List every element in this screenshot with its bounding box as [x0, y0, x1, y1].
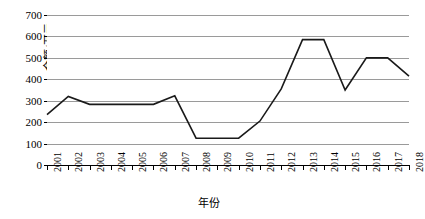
- x-axis-tick-mark: [111, 166, 112, 170]
- x-axis-tick-label: 2015: [350, 152, 361, 172]
- x-axis-tick-mark: [281, 166, 282, 170]
- x-axis-tick-mark: [409, 166, 410, 170]
- x-axis-tick-label: 2009: [222, 152, 233, 172]
- x-axis-tick-label: 2011: [265, 152, 276, 172]
- x-axis-tick-label: 2017: [393, 152, 404, 172]
- data-series-line: [47, 15, 409, 165]
- x-axis-tick-mark: [175, 166, 176, 170]
- x-axis-tick-label: 2004: [116, 152, 127, 172]
- y-axis-tick-label: 0: [0, 160, 42, 170]
- x-axis-tick-mark: [196, 166, 197, 170]
- x-axis-tick-mark: [90, 166, 91, 170]
- x-axis-tick-label: 2016: [371, 152, 382, 172]
- y-axis-tick-label: 300: [0, 96, 42, 106]
- x-axis-tick-label: 2010: [244, 152, 255, 172]
- x-axis-tick-label: 2018: [414, 152, 425, 172]
- x-axis-tick-mark: [217, 166, 218, 170]
- x-axis-tick-label: 2002: [73, 152, 84, 172]
- x-axis-tick-mark: [345, 166, 346, 170]
- y-axis-tick-label: 200: [0, 117, 42, 127]
- x-axis-tick-label: 2007: [180, 152, 191, 172]
- y-axis-tick-label: 100: [0, 139, 42, 149]
- x-axis-tick-label: 2006: [158, 152, 169, 172]
- x-axis-tick-mark: [324, 166, 325, 170]
- y-axis-tick-label: 400: [0, 74, 42, 84]
- x-axis-tick-mark: [153, 166, 154, 170]
- y-axis-tick-label: 600: [0, 31, 42, 41]
- x-axis-tick-label: 2003: [95, 152, 106, 172]
- x-axis-tick-mark: [47, 166, 48, 170]
- x-axis-tick-label: 2012: [286, 152, 297, 172]
- plot-area: [47, 15, 409, 165]
- x-axis-tick-label: 2013: [308, 152, 319, 172]
- x-axis-tick-label: 2014: [329, 152, 340, 172]
- x-axis-title: 年份: [0, 197, 418, 210]
- x-axis-tick-mark: [366, 166, 367, 170]
- x-axis-tick-label: 2008: [201, 152, 212, 172]
- y-axis-tick-label: 700: [0, 10, 42, 20]
- x-axis-tick-mark: [388, 166, 389, 170]
- x-axis-tick-mark: [260, 166, 261, 170]
- x-axis-tick-mark: [68, 166, 69, 170]
- x-axis-tick-label: 2005: [137, 152, 148, 172]
- x-axis-tick-mark: [303, 166, 304, 170]
- x-axis-tick-label: 2001: [52, 152, 63, 172]
- y-axis-tick-label: 500: [0, 53, 42, 63]
- x-axis-tick-mark: [239, 166, 240, 170]
- x-axis-tick-mark: [132, 166, 133, 170]
